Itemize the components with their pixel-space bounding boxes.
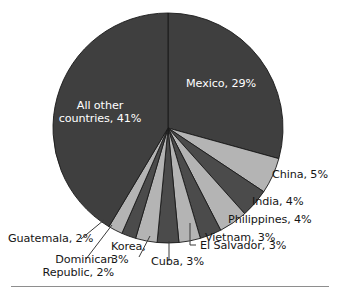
slice-label-cuba: Cuba, 3% [151,255,204,268]
slice-label-all-other-countries: All other countries, 41% [48,99,152,126]
slice-label-el-salvador: El Salvador, 3% [200,239,286,252]
slice-label-dominican-line1: Dominican [14,253,114,266]
slice-label-india: India, 4% [252,195,303,208]
slice-label-guatemala: Guatemala, 2% [8,232,93,245]
slice-label-korea-line2: 3% [111,253,155,266]
slice-label-china: China, 5% [272,168,328,181]
slice-label-all-other-line1: All other [48,99,152,112]
slice-label-dominican-republic: Dominican Republic, 2% [14,253,114,280]
pie-slices-group [53,13,283,243]
slice-label-korea-line1: Korea, [111,240,155,253]
pie-chart-figure: Mexico, 29% All other countries, 41% Chi… [0,0,344,298]
slice-label-mexico: Mexico, 29% [186,77,256,90]
slice-label-philippines: Philippines, 4% [228,213,312,226]
slice-label-dominican-line2: Republic, 2% [14,266,114,279]
slice-label-korea: Korea, 3% [111,240,155,267]
bottom-divider [11,286,329,287]
slice-label-all-other-line2: countries, 41% [48,112,152,125]
slice-label-mexico-text: Mexico, 29% [186,77,256,90]
